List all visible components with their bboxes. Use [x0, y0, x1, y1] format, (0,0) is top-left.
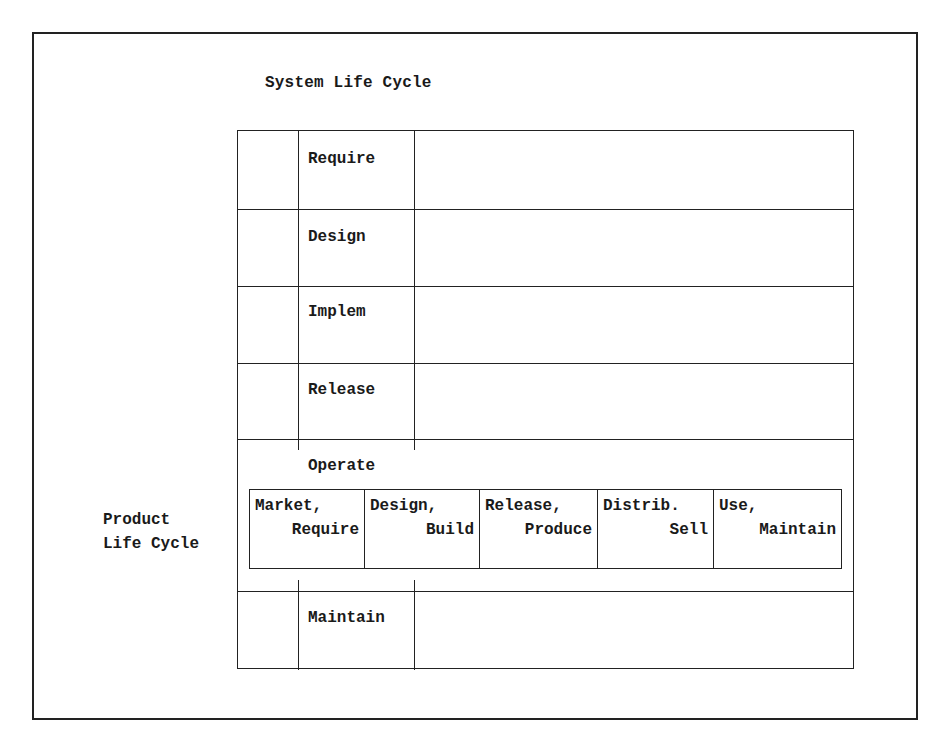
phase-operate: Operate — [308, 457, 375, 475]
phase-maintain: Maintain — [308, 609, 385, 627]
column-divider — [414, 131, 415, 450]
row-divider — [238, 286, 853, 287]
system-life-cycle-table: Require Design Implem Release Operate Ma… — [237, 130, 854, 669]
diagram-title: System Life Cycle — [265, 74, 432, 92]
row-divider — [238, 591, 853, 592]
row-divider — [238, 439, 853, 440]
stage-market-require: Market, Require — [250, 490, 365, 568]
stage-distrib-sell: Distrib. Sell — [598, 490, 714, 568]
phase-implem: Implem — [308, 303, 366, 321]
phase-release: Release — [308, 381, 375, 399]
row-divider — [238, 209, 853, 210]
column-divider — [414, 580, 415, 670]
column-divider — [298, 580, 299, 670]
product-life-cycle-label: Product Life Cycle — [103, 508, 199, 556]
stage-design-build: Design, Build — [365, 490, 480, 568]
column-divider — [298, 131, 299, 450]
phase-require: Require — [308, 150, 375, 168]
row-divider — [238, 363, 853, 364]
stage-release-produce: Release, Produce — [480, 490, 598, 568]
stage-use-maintain: Use, Maintain — [714, 490, 841, 568]
phase-design: Design — [308, 228, 366, 246]
product-life-cycle-box: Market, Require Design, Build Release, P… — [249, 489, 842, 569]
